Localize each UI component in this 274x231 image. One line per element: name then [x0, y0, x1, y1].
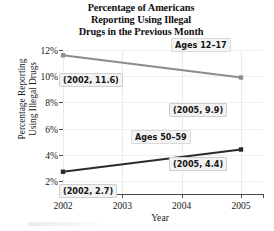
- data-point-label: (2005, 4.4): [169, 157, 227, 171]
- y-tick-label: 4%: [45, 149, 58, 160]
- scan-artifact: [28, 222, 98, 226]
- x-axis-end-tick: [263, 194, 264, 198]
- chart-title: Percentage of Americans Reporting Using …: [52, 2, 230, 39]
- data-point-marker: [239, 75, 243, 79]
- chart-title-line-3: Drugs in the Previous Month: [52, 26, 230, 38]
- plot-area: 2%4%6%8%10%12% 2002200320042005 (2002, 1…: [63, 50, 263, 194]
- data-point-marker: [239, 147, 243, 151]
- x-tick-mark: [122, 194, 123, 198]
- y-axis-title: Percentage Reporting Using Illegal Drugs: [17, 19, 39, 179]
- y-axis-title-line-1: Percentage Reporting: [17, 19, 28, 179]
- chart-title-line-1: Percentage of Americans: [52, 2, 230, 14]
- data-point-marker: [61, 53, 65, 57]
- y-tick-label: 8%: [45, 97, 58, 108]
- y-tick-label: 10%: [40, 71, 58, 82]
- chart-title-line-2: Reporting Using Illegal: [52, 14, 230, 26]
- x-tick-label: 2005: [231, 200, 250, 211]
- series-plot: [63, 50, 263, 194]
- x-tick-mark: [241, 194, 242, 198]
- series-label: Ages 50–59: [131, 130, 191, 144]
- x-tick-label: 2004: [172, 200, 191, 211]
- series-label: Ages 12–17: [171, 38, 231, 52]
- y-tick-label: 12%: [40, 45, 58, 56]
- data-point-label: (2002, 11.6): [59, 73, 123, 87]
- data-point-marker: [61, 170, 65, 174]
- x-tick-label: 2003: [113, 200, 132, 211]
- y-tick-label: 2%: [45, 175, 58, 186]
- chart-figure: Percentage of Americans Reporting Using …: [0, 0, 274, 231]
- x-tick-label: 2002: [53, 200, 72, 211]
- data-point-label: (2002, 2.7): [59, 184, 117, 198]
- y-axis-title-line-2: Using Illegal Drugs: [28, 19, 39, 179]
- x-tick-mark: [182, 194, 183, 198]
- y-tick-label: 6%: [45, 123, 58, 134]
- data-point-label: (2005, 9.9): [169, 103, 227, 117]
